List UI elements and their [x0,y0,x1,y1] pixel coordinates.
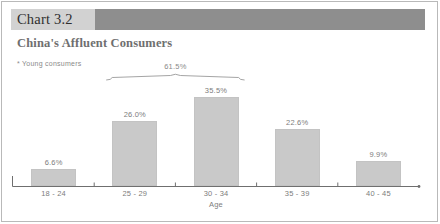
x-tick-label-4: 40 - 45 [348,189,408,198]
x-axis-title: Age [176,200,256,209]
brace-icon [106,74,244,80]
bar-2[interactable] [194,97,239,186]
x-tick-label-2: 30 - 34 [186,189,246,198]
bar-1[interactable] [112,121,157,186]
x-tick-label-3: 35 - 39 [267,189,327,198]
bar-value-3: 22.6% [267,118,327,127]
chart-figure: Chart 3.2 China's Affluent Consumers * Y… [0,0,440,224]
bar-4[interactable] [356,161,401,186]
bar-3[interactable] [275,129,320,186]
x-tick-label-0: 18 - 24 [24,189,84,198]
x-tick-label-1: 25 - 29 [105,189,165,198]
bar-value-2: 35.5% [186,86,246,95]
bar-value-1: 26.0% [105,110,165,119]
bar-value-0: 6.6% [24,158,84,167]
brace-annotation-label: 61.5% [145,62,205,71]
bar-0[interactable] [31,169,76,186]
plot-area: 6.6% 26.0% 35.5% 22.6% 9.9% 18 - 24 25 -… [0,0,440,224]
x-axis-arrow-icon [418,185,421,188]
bar-value-4: 9.9% [348,150,408,159]
